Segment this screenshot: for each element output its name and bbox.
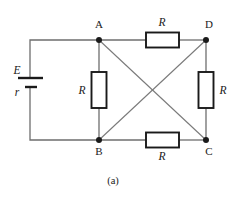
resistor-right-body: [199, 72, 214, 108]
diagonal-branches: [99, 40, 206, 140]
resistor-label-left: R: [77, 84, 85, 96]
node-label-d: D: [205, 18, 213, 30]
circuit-figure: A D B C R R R R E r (a): [0, 0, 234, 200]
resistor-top-body: [146, 33, 179, 48]
node-label-a: A: [95, 18, 103, 30]
internal-resistance-label: r: [15, 86, 20, 98]
node-dot-d: [203, 37, 209, 43]
resistor-label-bottom: R: [157, 150, 165, 162]
emf-label: E: [12, 64, 20, 76]
wire-top-left: [30, 40, 99, 77]
node-label-b: B: [95, 145, 102, 157]
node-dot-a: [96, 37, 102, 43]
resistor-left-body: [92, 72, 107, 108]
wire-bottom-left: [30, 87, 99, 140]
node-dot-c: [203, 137, 209, 143]
resistor-label-top: R: [157, 16, 165, 28]
resistor-bottom-body: [146, 133, 179, 148]
battery-symbol: [18, 78, 43, 87]
figure-caption: (a): [107, 175, 119, 187]
battery-branch-wires: [30, 40, 99, 140]
node-dot-b: [96, 137, 102, 143]
circuit-diagram-canvas: A D B C R R R R E r (a): [0, 0, 234, 200]
node-label-c: C: [205, 145, 212, 157]
resistor-label-right: R: [218, 84, 226, 96]
